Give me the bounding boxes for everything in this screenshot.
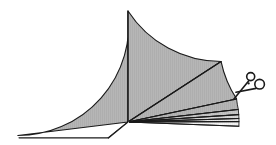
scissors-pivot	[247, 82, 249, 84]
sector-fan-diagram	[0, 0, 276, 145]
wedge-large-left	[18, 11, 129, 136]
scissors-ring-small	[247, 73, 255, 81]
scissors-blade-lower	[236, 88, 256, 92]
figure-root: Sector divided into wedges with scissors…	[0, 0, 276, 145]
base-mask	[0, 139, 276, 145]
scissors-ring-large	[255, 79, 265, 89]
scissors-icon	[234, 73, 265, 100]
